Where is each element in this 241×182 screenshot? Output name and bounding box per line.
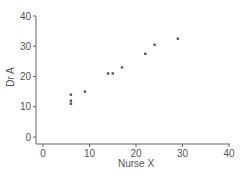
y-tick-label: 0	[25, 132, 31, 143]
data-point	[70, 93, 72, 95]
data-point	[70, 103, 72, 105]
y-tick-label: 10	[20, 101, 32, 112]
x-tick-label: 0	[40, 148, 46, 159]
x-tick-label: 10	[84, 148, 96, 159]
y-tick-label: 20	[20, 71, 32, 82]
data-point	[107, 72, 109, 74]
y-tick-label: 40	[20, 11, 32, 22]
data-point	[177, 37, 179, 39]
y-axis-label: Dr A	[5, 67, 16, 87]
x-axis-label: Nurse X	[118, 158, 154, 169]
scatter-chart: 010203040010203040 Nurse X Dr A	[0, 0, 241, 182]
chart-svg: 010203040010203040 Nurse X Dr A	[0, 0, 241, 182]
y-tick-label: 30	[20, 41, 32, 52]
axes: 010203040010203040	[20, 11, 235, 160]
x-tick-label: 40	[223, 148, 235, 159]
data-point	[121, 66, 123, 68]
data-point	[144, 53, 146, 55]
data-point	[84, 90, 86, 92]
data-points	[70, 37, 179, 104]
data-point	[153, 44, 155, 46]
data-point	[70, 100, 72, 102]
data-point	[112, 72, 114, 74]
x-tick-label: 30	[177, 148, 189, 159]
